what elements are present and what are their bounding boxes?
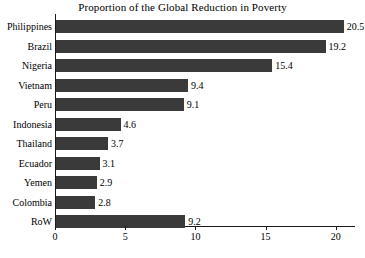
- bar-value-label: 9.1: [187, 98, 200, 111]
- bar-row: Ecuador3.1: [0, 154, 365, 174]
- bar: [56, 215, 185, 228]
- bar-value-label: 4.6: [124, 118, 137, 131]
- x-tick-mark: [266, 226, 267, 230]
- x-tick-mark: [55, 226, 56, 230]
- bar-chart: Proportion of the Global Reduction in Po…: [0, 0, 365, 258]
- bar-category-label: Brazil: [28, 40, 52, 53]
- bar-category-label: Vietnam: [18, 79, 52, 92]
- bar: [56, 40, 326, 53]
- bar-value-label: 3.1: [103, 157, 116, 170]
- bar-value-label: 19.2: [329, 40, 347, 53]
- bar: [56, 59, 272, 72]
- x-tick-label: 10: [190, 231, 200, 243]
- bar-row: Vietnam9.4: [0, 76, 365, 96]
- x-tick-label: 5: [123, 231, 128, 243]
- bar: [56, 157, 100, 170]
- x-tick-mark: [125, 226, 126, 230]
- x-tick-mark: [336, 226, 337, 230]
- bar-category-label: Yemen: [24, 176, 52, 189]
- bar-value-label: 20.5: [347, 20, 365, 33]
- bar-category-label: RoW: [31, 215, 52, 228]
- bar: [56, 137, 108, 150]
- bar-category-label: Peru: [34, 98, 52, 111]
- bar: [56, 20, 344, 33]
- bar-value-label: 15.4: [275, 59, 293, 72]
- plot-area: Philippines20.5Brazil19.2Nigeria15.4Viet…: [0, 14, 365, 230]
- bar-category-label: Colombia: [13, 196, 52, 209]
- bar-category-label: Indonesia: [13, 118, 52, 131]
- bar-row: Yemen2.9: [0, 173, 365, 193]
- x-tick-mark: [195, 226, 196, 230]
- bar: [56, 118, 121, 131]
- bar-category-label: Nigeria: [22, 59, 52, 72]
- bar-value-label: 9.4: [191, 79, 204, 92]
- bar-row: Brazil19.2: [0, 37, 365, 57]
- bar-value-label: 2.9: [100, 176, 113, 189]
- bar: [56, 196, 95, 209]
- bar-value-label: 3.7: [111, 137, 124, 150]
- bar-row: Indonesia4.6: [0, 115, 365, 135]
- chart-title: Proportion of the Global Reduction in Po…: [0, 1, 365, 13]
- bar-category-label: Thailand: [16, 137, 52, 150]
- bar-value-label: 2.8: [98, 196, 111, 209]
- bar-row: Nigeria15.4: [0, 56, 365, 76]
- bar: [56, 176, 97, 189]
- x-tick-label: 15: [261, 231, 271, 243]
- bar-row: Philippines20.5: [0, 17, 365, 37]
- bar-row: Thailand3.7: [0, 134, 365, 154]
- bar-row: Colombia2.8: [0, 193, 365, 213]
- bar: [56, 98, 184, 111]
- bar: [56, 79, 188, 92]
- bar-row: Peru9.1: [0, 95, 365, 115]
- x-tick-label: 20: [331, 231, 341, 243]
- bar-category-label: Philippines: [7, 20, 52, 33]
- bar-category-label: Ecuador: [19, 157, 52, 170]
- x-tick-label: 0: [53, 231, 58, 243]
